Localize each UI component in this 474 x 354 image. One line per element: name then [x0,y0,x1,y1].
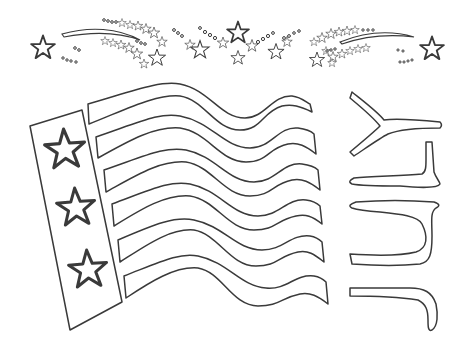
letter-j [350,288,437,330]
small-stars-left [101,19,229,69]
shooting-star-left-icon [62,29,140,40]
flag-stripe-5 [118,219,324,266]
flag-stripe-4 [112,183,322,230]
flag-stripes [88,83,328,306]
shooting-star-right-icon [340,33,414,44]
small-stars-right [309,26,370,67]
coloring-page-canvas [0,0,474,354]
large-star-left-icon [31,36,55,59]
flag-stripe-3 [104,149,320,196]
flag-stripe-2 [96,115,316,162]
large-star-center-icon [227,22,249,43]
small-stars-center [231,37,292,65]
july-letters [350,92,442,330]
flag [30,83,328,330]
flag-stripe-6 [124,255,328,306]
letter-u [350,201,439,266]
fireworks-border [31,19,444,69]
large-star-right-icon [420,37,444,60]
